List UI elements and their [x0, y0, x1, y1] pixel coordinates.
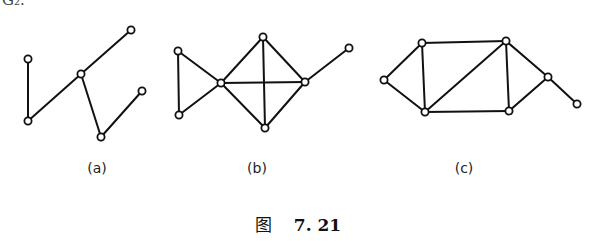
edge — [28, 74, 81, 121]
edge — [265, 82, 305, 128]
graph-figure — [0, 0, 596, 241]
vertex — [502, 37, 509, 44]
vertex — [217, 79, 224, 86]
edge — [422, 41, 506, 43]
figure-number: 7. 21 — [294, 215, 341, 235]
edge — [425, 111, 509, 112]
edge — [178, 51, 221, 83]
subfigure-label-a: (a) — [87, 160, 107, 176]
edge — [425, 41, 506, 112]
edge — [422, 43, 425, 112]
figure-word: 图 — [255, 215, 272, 235]
edge — [263, 37, 305, 82]
edge — [384, 43, 422, 80]
vertex — [301, 78, 308, 85]
edge — [81, 30, 131, 74]
subfigure-label-b: (b) — [247, 160, 267, 176]
vertex — [174, 47, 181, 54]
vertex — [544, 73, 551, 80]
vertex — [175, 111, 182, 118]
vertex — [97, 133, 104, 140]
vertex — [573, 100, 580, 107]
vertex — [345, 44, 352, 51]
edge — [506, 41, 509, 111]
edge — [548, 77, 577, 104]
subfigure-label-c: (c) — [455, 160, 474, 176]
edge — [221, 83, 265, 128]
vertex — [418, 39, 425, 46]
edge — [81, 74, 101, 137]
edge — [263, 37, 265, 128]
edge — [101, 91, 142, 137]
graph-a — [24, 26, 145, 140]
vertex — [138, 87, 145, 94]
vertex — [127, 26, 134, 33]
edge — [178, 51, 179, 115]
vertex — [259, 33, 266, 40]
edge — [384, 80, 425, 112]
vertex — [77, 70, 84, 77]
vertex — [421, 108, 428, 115]
edge — [509, 77, 548, 111]
vertex — [380, 76, 387, 83]
vertex — [24, 55, 31, 62]
vertex — [505, 107, 512, 114]
edge — [506, 41, 548, 77]
figure-caption: 图7. 21 — [255, 211, 341, 236]
vertex — [261, 124, 268, 131]
vertex — [24, 117, 31, 124]
edge — [179, 83, 221, 115]
graph-c — [380, 37, 580, 115]
graph-b — [174, 33, 352, 131]
edge — [305, 48, 349, 82]
edge — [221, 37, 263, 83]
